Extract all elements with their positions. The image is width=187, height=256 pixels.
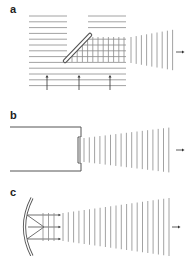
output-arrow-icon [176,149,185,152]
output-arrow-icon [176,51,185,54]
incident-arrows [46,75,112,90]
focusing-rays [27,213,61,241]
panel-a: a [10,3,185,90]
reflector-wavefronts [63,198,169,256]
panel-label-c: c [10,186,16,198]
output-arrow-icon [172,226,181,229]
diagram-figure: a b c [0,0,187,256]
panel-label-a: a [10,3,17,15]
panel-label-b: b [10,109,17,121]
piston-wavefronts [84,128,169,173]
output-wavefronts [131,30,173,70]
panel-c: c [10,186,181,256]
panel-b: b [10,109,185,172]
baffle [10,127,81,171]
